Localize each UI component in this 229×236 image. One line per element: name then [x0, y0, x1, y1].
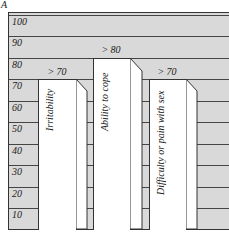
bar-label: Ability to cope [99, 73, 110, 131]
tick-70: 70 [12, 80, 22, 91]
bar-side-face [186, 79, 198, 229]
bar-value-label: > 80 [93, 44, 129, 55]
bar-side-face [76, 79, 88, 229]
bar-value-label: > 70 [38, 66, 76, 77]
tick-10: 10 [12, 209, 22, 220]
plot-area: 100 90 80 70 60 50 40 30 20 10 > 70 Irri… [8, 12, 229, 230]
gridline-90 [9, 36, 229, 37]
bar-value-label: > 70 [149, 66, 185, 77]
tick-50: 50 [12, 123, 22, 134]
tick-80: 80 [12, 59, 22, 70]
tick-100: 100 [12, 16, 27, 27]
bar-label: Irritability [44, 89, 55, 131]
gridline-100 [9, 15, 229, 16]
panel-label: A [1, 0, 7, 10]
tick-30: 30 [12, 166, 22, 177]
bar-side-face [130, 58, 143, 229]
bar-label: Difficulty or pain with sex [155, 91, 166, 195]
tick-40: 40 [12, 145, 22, 156]
tick-20: 20 [12, 188, 22, 199]
tick-60: 60 [12, 102, 22, 113]
tick-90: 90 [12, 37, 22, 48]
